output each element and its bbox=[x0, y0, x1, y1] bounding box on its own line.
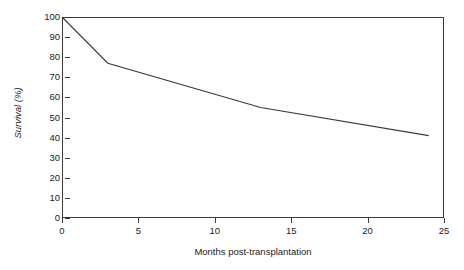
x-tick-mark bbox=[138, 218, 139, 223]
x-tick-label: 20 bbox=[348, 226, 388, 236]
y-tick-label: 60 bbox=[49, 92, 60, 102]
survival-series-line bbox=[62, 17, 429, 136]
y-tick-label: 20 bbox=[49, 173, 60, 183]
y-tick-label: 80 bbox=[49, 52, 60, 62]
survival-chart-figure: 0102030405060708090100 0510152025 Surviv… bbox=[0, 0, 464, 270]
x-tick-label: 10 bbox=[195, 226, 235, 236]
x-tick-label: 5 bbox=[118, 226, 158, 236]
y-tick-label: 40 bbox=[49, 133, 60, 143]
y-tick-label: 0 bbox=[55, 213, 60, 223]
y-tick-label: 70 bbox=[49, 72, 60, 82]
y-tick-mark bbox=[65, 218, 70, 219]
x-tick-mark bbox=[291, 218, 292, 223]
y-tick-label: 100 bbox=[44, 12, 60, 22]
x-tick-label: 15 bbox=[271, 226, 311, 236]
x-tick-label: 0 bbox=[42, 226, 82, 236]
y-tick-label: 50 bbox=[49, 113, 60, 123]
y-axis-title: Survival (%) bbox=[12, 48, 23, 178]
x-tick-label: 25 bbox=[424, 226, 464, 236]
x-tick-mark bbox=[62, 218, 63, 223]
y-tick-label: 30 bbox=[49, 153, 60, 163]
plot-canvas bbox=[62, 17, 444, 218]
y-tick-label: 90 bbox=[49, 32, 60, 42]
x-tick-mark bbox=[368, 218, 369, 223]
y-tick-label: 10 bbox=[49, 193, 60, 203]
x-tick-mark bbox=[215, 218, 216, 223]
x-tick-mark bbox=[444, 218, 445, 223]
x-axis-title: Months post-transplantation bbox=[62, 246, 444, 257]
